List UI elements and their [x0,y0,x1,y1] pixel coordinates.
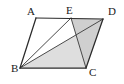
vertex-label-d: D [108,5,116,17]
vertex-label-e: E [66,4,73,16]
geometry-figure: A B C D E [0,0,124,84]
vertex-label-a: A [27,5,35,17]
vertex-label-b: B [11,62,18,74]
figure-background [0,0,124,84]
vertex-label-c: C [89,66,96,78]
figure-canvas: A B C D E [0,0,124,84]
